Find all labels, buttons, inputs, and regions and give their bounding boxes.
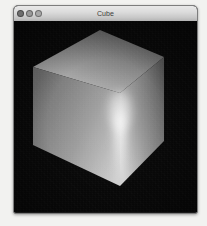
application-window[interactable]: Cube (13, 5, 198, 214)
cube-highlight-bloom (107, 91, 133, 131)
screenshot-root: Cube (0, 0, 207, 226)
minimize-button[interactable] (26, 10, 33, 17)
zoom-button[interactable] (35, 10, 42, 17)
close-button[interactable] (17, 10, 24, 17)
window-titlebar[interactable]: Cube (14, 6, 197, 22)
opengl-render-view[interactable] (14, 21, 197, 212)
window-controls (17, 6, 42, 21)
cube-render (14, 21, 197, 212)
